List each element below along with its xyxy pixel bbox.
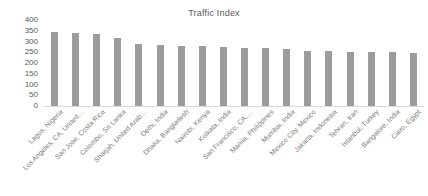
bar-slot bbox=[382, 20, 403, 106]
bar-slot bbox=[171, 20, 192, 106]
bar[interactable] bbox=[325, 51, 332, 106]
bar[interactable] bbox=[304, 51, 311, 106]
bar-slot bbox=[192, 20, 213, 106]
x-axis-labels: Lagos, NigeriaLos Angeles, CA, United…Sa… bbox=[44, 108, 424, 196]
bar-slot bbox=[44, 20, 65, 106]
bar-slot bbox=[65, 20, 86, 106]
bar-slot bbox=[255, 20, 276, 106]
bar-series bbox=[44, 20, 424, 106]
bar-slot bbox=[318, 20, 339, 106]
bar-slot bbox=[361, 20, 382, 106]
bar[interactable] bbox=[283, 49, 290, 106]
plot-area bbox=[44, 20, 424, 106]
bar-slot bbox=[213, 20, 234, 106]
category-axis-line bbox=[44, 106, 424, 107]
bar-slot bbox=[403, 20, 424, 106]
bar-slot bbox=[128, 20, 149, 106]
bar-slot bbox=[86, 20, 107, 106]
bar[interactable] bbox=[51, 32, 58, 106]
bar[interactable] bbox=[347, 52, 354, 106]
bar-slot bbox=[150, 20, 171, 106]
y-axis-tick-label: 0 bbox=[34, 102, 38, 110]
bar[interactable] bbox=[178, 46, 185, 106]
bar[interactable] bbox=[262, 48, 269, 106]
bar-slot bbox=[234, 20, 255, 106]
bar[interactable] bbox=[410, 53, 417, 106]
bar[interactable] bbox=[241, 48, 248, 106]
bar[interactable] bbox=[93, 34, 100, 106]
y-axis-tick-label: 250 bbox=[25, 48, 38, 56]
bar[interactable] bbox=[220, 47, 227, 106]
bar[interactable] bbox=[389, 52, 396, 106]
bar[interactable] bbox=[114, 38, 121, 106]
y-axis-tick-label: 50 bbox=[29, 91, 38, 99]
y-axis-tick-label: 300 bbox=[25, 38, 38, 46]
y-axis-tick-label: 200 bbox=[25, 59, 38, 67]
y-axis-tick-label: 350 bbox=[25, 27, 38, 35]
bar-slot bbox=[107, 20, 128, 106]
bar-slot bbox=[297, 20, 318, 106]
bar-slot bbox=[340, 20, 361, 106]
traffic-index-chart: Traffic Index 400350300250200150100500 L… bbox=[0, 0, 428, 196]
bar[interactable] bbox=[199, 46, 206, 106]
y-axis-tick-label: 400 bbox=[25, 16, 38, 24]
bar[interactable] bbox=[72, 33, 79, 106]
bar[interactable] bbox=[368, 52, 375, 106]
bar[interactable] bbox=[135, 44, 142, 106]
y-axis: 400350300250200150100500 bbox=[0, 20, 40, 106]
chart-title: Traffic Index bbox=[0, 8, 428, 18]
bar-slot bbox=[276, 20, 297, 106]
y-axis-tick-label: 100 bbox=[25, 81, 38, 89]
y-axis-tick-label: 150 bbox=[25, 70, 38, 78]
bar[interactable] bbox=[157, 45, 164, 106]
